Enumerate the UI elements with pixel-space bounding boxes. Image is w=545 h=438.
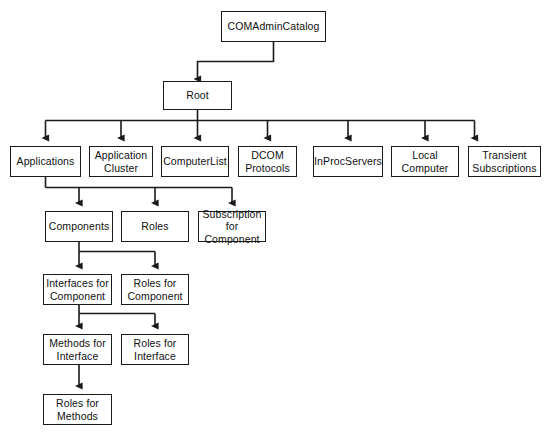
node-methods-for-interface[interactable]: Methods for Interface: [43, 334, 112, 365]
node-application-cluster[interactable]: Application Cluster: [89, 146, 153, 177]
node-inprocservers[interactable]: InProcServers: [313, 146, 383, 177]
node-roles-for-interface[interactable]: Roles for Interface: [121, 334, 189, 365]
node-roles-for-methods[interactable]: Roles for Methods: [43, 394, 112, 425]
node-local-computer[interactable]: Local Computer: [391, 146, 459, 177]
node-root[interactable]: Root: [163, 81, 232, 110]
node-roles-for-component[interactable]: Roles for Component: [121, 274, 189, 305]
node-comadmincatalog[interactable]: COMAdminCatalog: [221, 11, 326, 42]
node-dcom-protocols[interactable]: DCOM Protocols: [238, 146, 297, 177]
node-transient-subscriptions[interactable]: Transient Subscriptions: [468, 146, 541, 177]
node-components[interactable]: Components: [45, 211, 113, 242]
edge-root-bus: [46, 110, 475, 121]
edge-catalog-to-root: [198, 42, 274, 79]
node-subscription-for-component[interactable]: Subscription for Component: [198, 211, 266, 242]
node-applications[interactable]: Applications: [10, 146, 81, 177]
node-computerlist[interactable]: ComputerList: [161, 146, 229, 177]
node-roles[interactable]: Roles: [121, 211, 189, 242]
diagram-canvas: COMAdminCatalog Root Applications Applic…: [0, 0, 545, 438]
edge-applications-bus: [46, 177, 233, 188]
node-interfaces-for-component[interactable]: Interfaces for Component: [43, 274, 112, 305]
edge-components-bus: [79, 242, 155, 252]
edge-interfaces-bus: [79, 305, 155, 314]
